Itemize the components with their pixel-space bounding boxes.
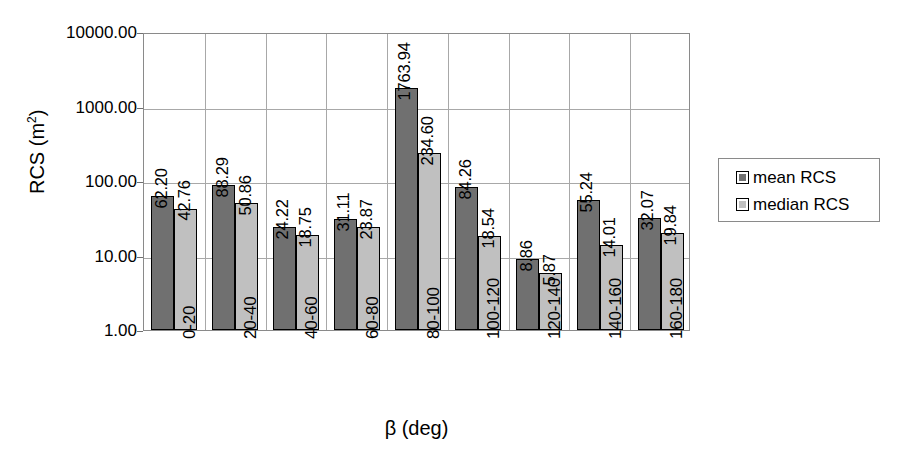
- y-tick-label: 10.00: [5, 248, 137, 265]
- bar-mean-20-40: [212, 185, 235, 330]
- y-tick-label: 100.00: [5, 173, 137, 190]
- value-label-median-160-180: 19.84: [662, 206, 679, 246]
- value-label-mean-160-180: 32.07: [639, 190, 656, 230]
- category-separator-gridline: [205, 34, 206, 330]
- legend-item-mean-rcs: mean RCS: [736, 167, 836, 187]
- legend-swatch-median-rcs: [736, 198, 749, 211]
- legend-label-mean-rcs: mean RCS: [753, 169, 836, 186]
- value-label-median-60-80: 23.87: [358, 200, 375, 240]
- x-tick-label-40-60: 40-60: [303, 297, 320, 339]
- value-label-mean-100-120: 84.26: [456, 159, 473, 199]
- x-tick-label-100-120: 100-120: [485, 278, 502, 339]
- x-axis-title: β (deg): [143, 417, 690, 440]
- value-label-median-80-100: 234.60: [419, 117, 436, 166]
- bar-mean-40-60: [273, 227, 296, 330]
- value-label-mean-120-140: 8.86: [517, 241, 534, 272]
- value-label-mean-60-80: 31.11: [335, 192, 352, 231]
- x-tick-label-120-140: 120-140: [546, 278, 563, 339]
- legend-label-median-rcs: median RCS: [753, 196, 849, 213]
- x-tick-label-20-40: 20-40: [242, 297, 259, 339]
- value-label-median-100-120: 18.54: [479, 208, 496, 248]
- x-tick-label-0-20: 0-20: [181, 306, 198, 339]
- bar-mean-100-120: [455, 187, 478, 330]
- category-separator-gridline: [448, 34, 449, 330]
- bar-mean-160-180: [638, 218, 661, 330]
- x-tick-label-80-100: 80-100: [425, 287, 442, 339]
- y-axis-tick-labels: 10000.001000.00100.0010.001.00: [0, 0, 137, 456]
- x-tick-label-160-180: 160-180: [668, 278, 685, 339]
- value-label-mean-40-60: 24.22: [274, 199, 291, 239]
- legend-item-median-rcs: median RCS: [736, 194, 849, 214]
- chart-legend: mean RCS median RCS: [718, 158, 880, 222]
- category-separator-gridline: [569, 34, 570, 330]
- bar-mean-140-160: [577, 200, 600, 330]
- value-label-mean-80-100: 1763.94: [396, 42, 413, 100]
- x-tick-label-60-80: 60-80: [364, 297, 381, 339]
- value-label-median-40-60: 18.75: [297, 207, 314, 247]
- value-label-median-140-160: 14.01: [601, 217, 618, 257]
- y-tick-label: 10000.00: [5, 24, 137, 41]
- value-label-median-0-20: 42.76: [175, 181, 192, 221]
- y-tick-mark: [137, 182, 143, 183]
- value-label-mean-0-20: 62.20: [152, 169, 169, 209]
- category-separator-gridline: [387, 34, 388, 330]
- value-label-mean-20-40: 88.29: [213, 157, 230, 197]
- category-separator-gridline: [266, 34, 267, 330]
- y-tick-label: 1000.00: [5, 99, 137, 116]
- value-label-median-20-40: 50.86: [236, 175, 253, 215]
- y-tick-mark: [137, 257, 143, 258]
- rcs-bar-chart: RCS (m2) 10000.001000.00100.0010.001.00 …: [0, 0, 920, 456]
- bar-mean-60-80: [334, 219, 357, 330]
- x-tick-label-140-160: 140-160: [607, 278, 624, 339]
- bar-mean-0-20: [151, 196, 174, 330]
- y-tick-mark: [137, 33, 143, 34]
- bar-mean-80-100: [395, 88, 418, 330]
- category-separator-gridline: [630, 34, 631, 330]
- value-label-mean-140-160: 55.24: [578, 172, 595, 212]
- y-tick-label: 1.00: [5, 322, 137, 339]
- y-tick-mark: [137, 331, 143, 332]
- category-separator-gridline: [326, 34, 327, 330]
- category-separator-gridline: [509, 34, 510, 330]
- legend-swatch-mean-rcs: [736, 171, 749, 184]
- y-tick-mark: [137, 108, 143, 109]
